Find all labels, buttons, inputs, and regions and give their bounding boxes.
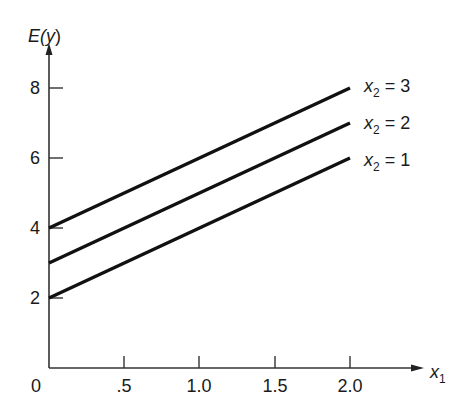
x-tick-label: 2.0 — [337, 376, 362, 396]
line-x2-3 — [49, 88, 350, 228]
series-label-x2-3: x2 = 3 — [363, 76, 410, 100]
y-ticks — [49, 88, 63, 298]
series-eq: = 1 — [380, 150, 411, 170]
series-eq: = 3 — [380, 76, 411, 96]
x-tick-label: .5 — [116, 376, 131, 396]
x-ticks — [124, 356, 350, 368]
x-tick-label: 1.5 — [262, 376, 287, 396]
origin-label: 0 — [31, 376, 41, 396]
x-tick-labels: .5 1.0 1.5 2.0 — [116, 376, 362, 396]
y-tick-label: 4 — [30, 218, 40, 238]
y-tick-label: 6 — [30, 148, 40, 168]
y-tick-label: 8 — [30, 78, 40, 98]
series-eq: = 2 — [380, 113, 411, 133]
series-label-x2-2: x2 = 2 — [363, 113, 410, 137]
y-tick-labels: 8 6 4 2 — [30, 78, 40, 308]
x-axis-arrow-icon — [411, 365, 424, 372]
y-axis-title-close: ) — [55, 26, 61, 46]
x-tick-label: 1.0 — [186, 376, 211, 396]
chart-canvas: 8 6 4 2 .5 1.0 1.5 2.0 0 E(y) x1 x2 = 3 … — [0, 0, 469, 420]
series-label-x2-1: x2 = 1 — [363, 150, 410, 174]
y-axis-title-e: E( — [28, 26, 48, 46]
y-axis-title: E(y) — [28, 26, 61, 46]
y-tick-label: 2 — [30, 288, 40, 308]
line-x2-2 — [49, 123, 350, 263]
series-lines — [49, 88, 350, 298]
x-axis-title-sub: 1 — [439, 372, 446, 386]
x-axis-title: x1 — [429, 362, 446, 386]
line-x2-1 — [49, 158, 350, 298]
